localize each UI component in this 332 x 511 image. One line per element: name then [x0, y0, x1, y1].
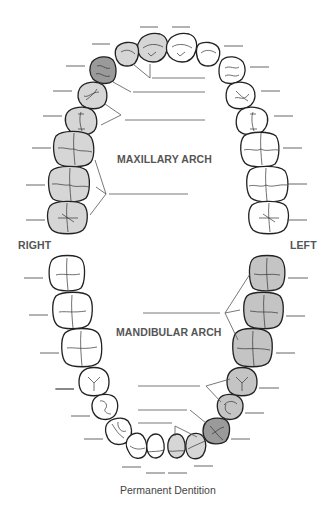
- diagram-caption: Permanent Dentition: [120, 484, 216, 496]
- tooth-mand-left-second-molar: [244, 292, 284, 329]
- right-side-label: RIGHT: [18, 239, 51, 251]
- tooth-mand-left-second-premolar: [227, 368, 257, 396]
- tooth-mand-right-central-incisor: [147, 434, 164, 458]
- tooth-mand-right-first-molar: [62, 329, 102, 367]
- dentition-diagram: [0, 0, 332, 511]
- maxillary-arch: [26, 27, 307, 234]
- tooth-mand-right-first-premolar: [92, 394, 118, 419]
- tooth-mand-left-first-molar: [233, 329, 273, 367]
- tooth-max-right-second-premolar: [65, 107, 96, 135]
- tooth-max-left-first-molar: [241, 132, 279, 167]
- tooth-mand-left-third-molar: [249, 256, 284, 291]
- tooth-mand-left-first-premolar: [217, 394, 243, 419]
- tooth-max-left-lateral-incisor: [196, 42, 219, 66]
- tooth-mand-right-second-molar: [53, 292, 93, 329]
- tooth-max-left-second-premolar: [236, 107, 267, 135]
- tooth-max-left-central-incisor: [166, 33, 196, 62]
- maxillary-arch-label: MAXILLARY ARCH: [117, 153, 212, 165]
- tooth-mand-right-lateral-incisor: [126, 433, 147, 458]
- tooth-max-right-first-molar: [54, 131, 94, 166]
- tooth-max-left-third-molar: [249, 201, 289, 233]
- tooth-max-right-lateral-incisor: [115, 42, 138, 66]
- maxillary-group-leaders: [90, 64, 205, 215]
- mandibular-arch: [24, 256, 308, 474]
- tooth-max-right-first-premolar: [78, 82, 107, 109]
- left-side-label: LEFT: [290, 239, 317, 251]
- mandibular-arch-label: MANDIBULAR ARCH: [116, 326, 222, 338]
- tooth-mand-right-second-premolar: [79, 368, 109, 396]
- tooth-mand-right-third-molar: [49, 256, 84, 291]
- tooth-mand-left-canine: [203, 418, 230, 444]
- tooth-max-right-canine: [90, 57, 116, 84]
- tooth-max-left-first-premolar: [226, 82, 255, 109]
- tooth-max-right-third-molar: [48, 201, 88, 233]
- tooth-max-left-canine: [219, 57, 245, 84]
- tooth-mand-left-central-incisor: [168, 434, 185, 458]
- tooth-max-left-second-molar: [247, 166, 288, 202]
- tooth-max-right-central-incisor: [137, 33, 167, 62]
- tooth-mand-left-lateral-incisor: [186, 433, 206, 458]
- tooth-max-right-second-molar: [49, 166, 90, 202]
